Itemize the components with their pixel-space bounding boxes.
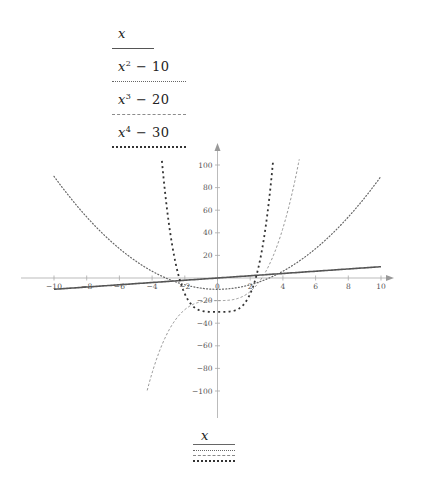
- svg-text:−6: −6: [114, 282, 125, 291]
- svg-text:4: 4: [281, 282, 286, 291]
- legend-bottom-line-solid: [193, 444, 235, 445]
- svg-text:80: 80: [203, 183, 213, 192]
- svg-text:6: 6: [313, 282, 318, 291]
- chart-plot-area: −10−8−6−4−20246810 −100−80−60−40−2020406…: [0, 0, 435, 486]
- svg-text:40: 40: [203, 228, 213, 237]
- svg-text:60: 60: [203, 206, 213, 215]
- svg-text:−2: −2: [179, 282, 190, 291]
- legend-bottom-line-dashed-fine: [193, 455, 235, 456]
- legend-bottom-line-dotted: [193, 450, 235, 451]
- svg-text:−80: −80: [197, 364, 213, 373]
- legend-bottom-label: x: [201, 428, 208, 443]
- svg-text:10: 10: [376, 282, 386, 291]
- svg-text:100: 100: [198, 161, 213, 170]
- svg-text:−40: −40: [197, 319, 213, 328]
- svg-text:−60: −60: [197, 341, 213, 350]
- svg-text:−100: −100: [192, 387, 213, 396]
- legend-bottom-line-dashed-bold: [193, 460, 235, 462]
- series-x3-minus-20-line: [147, 159, 299, 390]
- y-axis-arrow-icon: [215, 143, 221, 151]
- svg-text:8: 8: [346, 282, 351, 291]
- x-axis-arrow-icon: [386, 275, 394, 281]
- svg-text:20: 20: [203, 251, 213, 260]
